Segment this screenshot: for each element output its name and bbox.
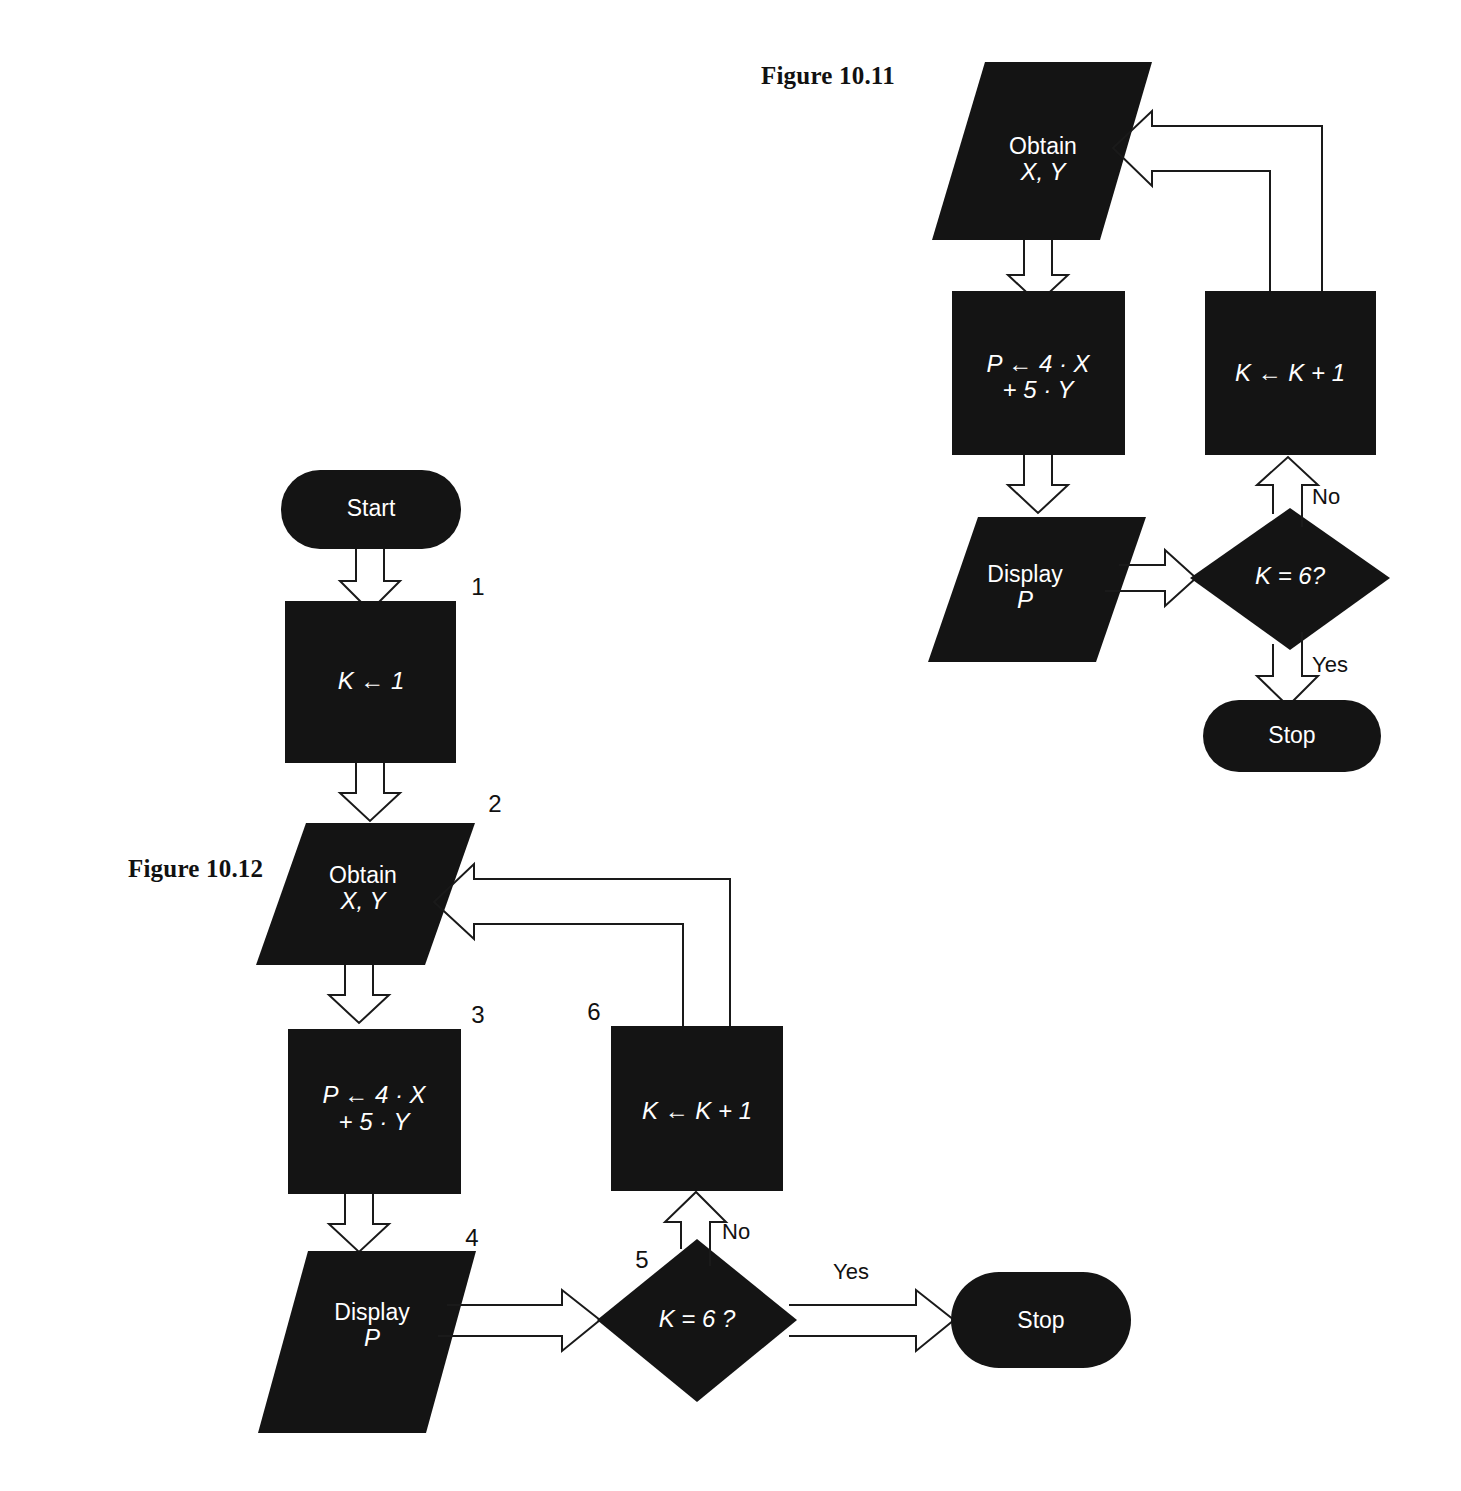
edge-incr-to-obtain-loop (1113, 111, 1322, 291)
node-start-label: Start (347, 495, 396, 521)
node-incr-label: K ← K + 1 (1235, 359, 1345, 386)
edge-obtain-to-compute-12 (329, 965, 389, 1023)
node-display-label-1: Display (987, 561, 1063, 587)
node-display-12-label-2: P (364, 1324, 380, 1351)
node-compute-12-label-1: P ← 4 · X (322, 1081, 426, 1108)
edge-decision-yes-to-stop-12 (789, 1290, 954, 1351)
node-incr-step-number: 6 (587, 998, 600, 1025)
node-obtain-label-1: Obtain (1009, 133, 1077, 159)
node-decision-12-label: K = 6 ? (659, 1305, 736, 1332)
edge-label-no-10-11: No (1312, 484, 1340, 509)
node-init-label: K ← 1 (338, 667, 405, 694)
edge-init-to-obtain (340, 763, 400, 821)
node-compute-12-label-2: + 5 · Y (339, 1108, 412, 1135)
node-compute-label-1: P ← 4 · X (986, 350, 1090, 377)
node-display-step-number: 4 (465, 1224, 478, 1251)
node-obtain-12-label-2: X, Y (340, 887, 388, 914)
node-display-label-2: P (1017, 586, 1033, 613)
node-decision-step-number: 5 (635, 1246, 648, 1273)
node-display-shape[interactable] (928, 517, 1146, 662)
node-obtain-12-label-1: Obtain (329, 862, 397, 888)
flowchart-page: Figure 10.11 Figure 10.12 Obtain X, Y P … (0, 0, 1461, 1491)
edge-label-yes-10-11: Yes (1312, 652, 1348, 677)
node-decision-label: K = 6? (1255, 562, 1326, 589)
edge-compute-to-display-12 (329, 1194, 389, 1252)
node-obtain-label-2: X, Y (1020, 158, 1068, 185)
edge-label-no-10-12: No (722, 1219, 750, 1244)
node-obtain-step-number: 2 (488, 790, 501, 817)
node-stop-label: Stop (1268, 722, 1315, 748)
edge-label-yes-10-12: Yes (833, 1259, 869, 1284)
node-stop-12-label: Stop (1017, 1307, 1064, 1333)
node-compute-label-2: + 5 · Y (1003, 376, 1076, 403)
node-compute-step-number: 3 (471, 1001, 484, 1028)
node-incr-12-label: K ← K + 1 (642, 1097, 752, 1124)
node-display-12-label-1: Display (334, 1299, 410, 1325)
figure-10-11-group: Obtain X, Y P ← 4 · X + 5 · Y Display P … (928, 62, 1390, 772)
flowchart-canvas: Obtain X, Y P ← 4 · X + 5 · Y Display P … (0, 0, 1461, 1491)
edge-compute-to-display (1008, 455, 1068, 513)
node-init-step-number: 1 (471, 573, 484, 600)
